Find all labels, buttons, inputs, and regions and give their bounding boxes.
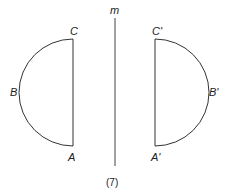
label-a: A xyxy=(67,151,75,163)
reflection-diagram: m C B A C' B' A' (7) xyxy=(0,0,230,193)
original-semicircle xyxy=(19,39,73,146)
label-c-prime: C' xyxy=(152,25,163,37)
figure-caption: (7) xyxy=(106,177,118,188)
label-b-prime: B' xyxy=(209,86,219,98)
reflected-semicircle xyxy=(155,39,209,146)
mirror-line-label: m xyxy=(110,4,119,16)
label-c: C xyxy=(70,25,78,37)
label-a-prime: A' xyxy=(150,151,161,163)
label-b: B xyxy=(10,86,17,98)
